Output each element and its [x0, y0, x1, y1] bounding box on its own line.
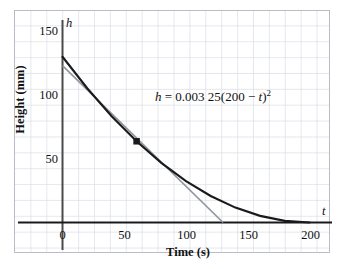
equation-coefficient: 0.003 25	[175, 89, 221, 104]
x-tick-150: 150	[233, 229, 264, 242]
equation-body: (200 − t)	[221, 89, 267, 104]
equation-annotation: h = 0.003 25(200 − t)2	[155, 88, 271, 105]
x-tick-100: 100	[171, 229, 202, 242]
x-tick-0: 0	[47, 229, 78, 242]
y-tick-150: 150	[20, 25, 58, 38]
height-curve	[63, 57, 310, 223]
equation-equals: =	[165, 89, 172, 104]
x-axis-label: Time (s)	[118, 245, 258, 260]
y-axis-label: Height (mm)	[13, 52, 28, 148]
x-tick-200: 200	[295, 229, 326, 242]
y-tick-50: 50	[20, 153, 58, 166]
equation-lhs: h	[155, 89, 162, 104]
figure-container: 150 100 50 0 50 100 150 200 Height (mm) …	[0, 0, 345, 269]
x-tick-50: 50	[109, 229, 140, 242]
tangent-point-marker	[133, 138, 140, 145]
x-axis-variable-name: t	[322, 204, 325, 219]
equation-exponent: 2	[266, 88, 271, 98]
y-axis-variable-name: h	[66, 16, 72, 31]
